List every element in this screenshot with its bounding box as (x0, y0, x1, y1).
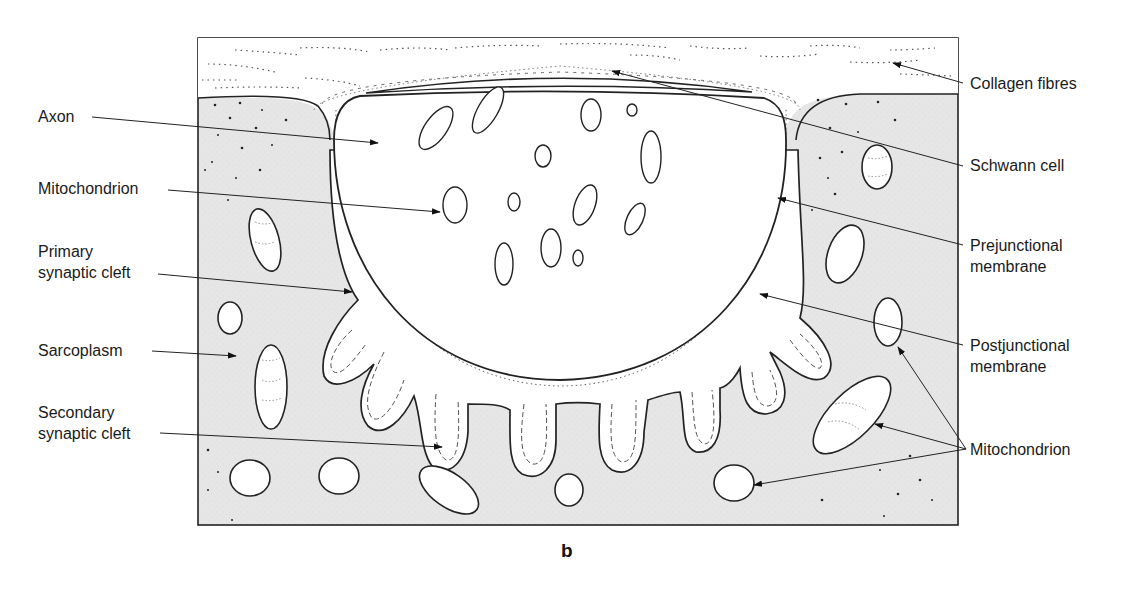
label-mitochondrion-left: Mitochondrion (38, 178, 139, 199)
panel-letter: b (561, 540, 573, 562)
neuromuscular-junction-diagram (0, 0, 1134, 590)
label-secondary-synaptic-cleft: Secondary synaptic cleft (38, 402, 130, 444)
label-schwann-cell: Schwann cell (970, 155, 1064, 176)
label-sarcoplasm: Sarcoplasm (38, 340, 122, 361)
label-primary-synaptic-cleft: Primary synaptic cleft (38, 241, 130, 283)
label-postjunctional-membrane: Postjunctional membrane (970, 335, 1070, 377)
label-collagen-fibres: Collagen fibres (970, 73, 1077, 94)
label-mitochondrion-right: Mitochondrion (970, 439, 1071, 460)
label-prejunctional-membrane: Prejunctional membrane (970, 235, 1063, 277)
label-axon: Axon (38, 106, 74, 127)
